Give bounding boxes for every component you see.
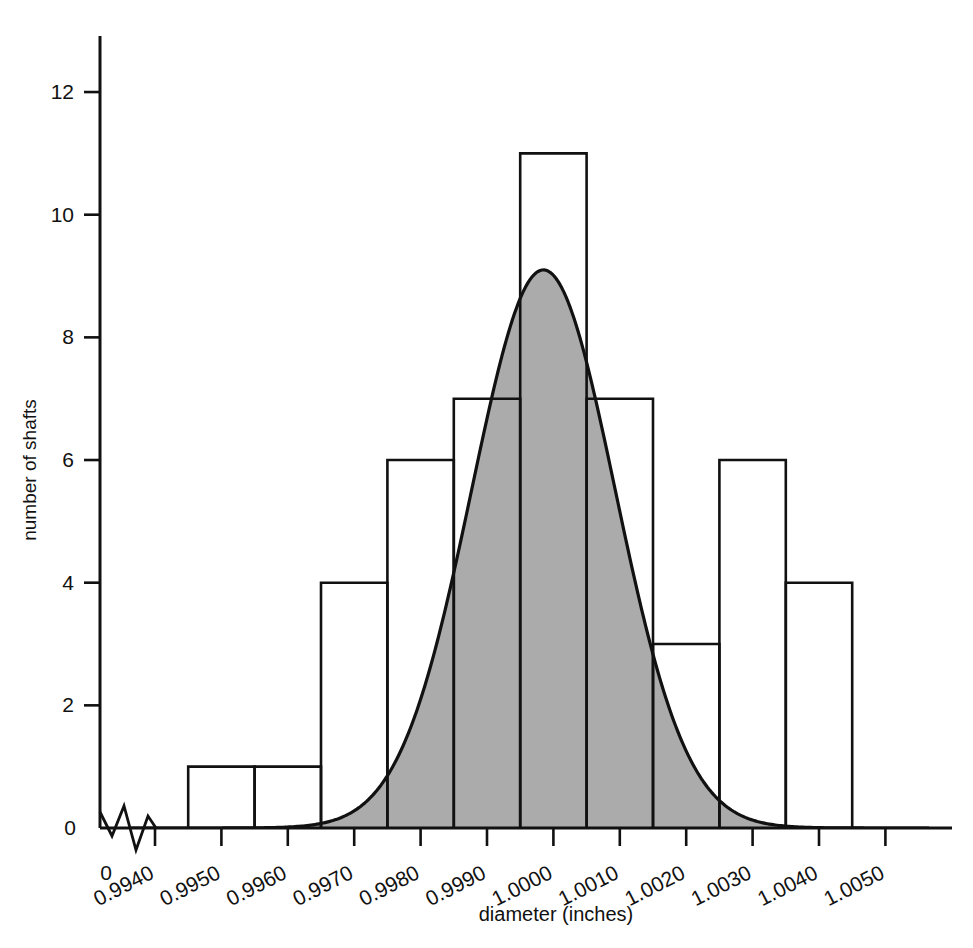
y-axis-tick-label: 8: [62, 325, 74, 348]
histogram-bar: [719, 460, 785, 828]
histogram-bar: [786, 583, 852, 828]
y-axis-tick-label: 6: [62, 448, 74, 471]
y-axis-tick-label: 12: [51, 80, 74, 103]
chart-canvas: 024681012 00.99400.99500.99600.99700.998…: [0, 0, 973, 948]
x-axis-tick-label: 0.9980: [355, 860, 423, 910]
y-axis-tick-label: 10: [51, 203, 74, 226]
y-axis-tick-label: 4: [62, 571, 74, 594]
x-axis-ticks: 00.99400.99500.99600.99700.99800.99901.0…: [90, 828, 888, 910]
normal-curve-fill: [132, 270, 929, 828]
x-axis-title: diameter (inches): [479, 903, 634, 925]
y-axis-ticks: 024681012: [51, 80, 100, 839]
histogram-bars: [188, 153, 852, 828]
histogram-figure: 024681012 00.99400.99500.99600.99700.998…: [0, 0, 973, 948]
normal-curve-area: [132, 270, 929, 828]
histogram-bar: [188, 767, 254, 828]
y-axis-tick-label: 2: [62, 693, 74, 716]
x-axis-tick-label: 1.0040: [754, 860, 822, 910]
x-axis-tick-label: 1.0030: [687, 860, 755, 910]
histogram-bar: [255, 767, 321, 828]
y-axis-tick-label: 0: [64, 816, 76, 839]
x-axis-tick-label: 0.9960: [222, 860, 290, 910]
x-axis-tick-label: 1.0050: [820, 860, 888, 910]
x-axis-tick-label: 0.9950: [156, 860, 224, 910]
x-axis-tick-label: 0.9970: [289, 860, 357, 910]
y-axis-title: number of shafts: [19, 399, 40, 541]
